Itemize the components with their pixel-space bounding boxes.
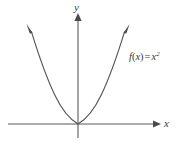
y-axis-arrowhead-icon (74, 13, 81, 21)
x-axis-label: x (164, 118, 169, 129)
graph-canvas (0, 0, 178, 144)
curve-right-arrowhead-icon (124, 24, 130, 34)
equation-equals-sign: = (144, 51, 152, 62)
curve-equation-label: f(x)=x2 (129, 52, 160, 63)
x-axis-arrowhead-icon (153, 120, 161, 127)
curve-left-arrowhead-icon (27, 24, 33, 34)
y-axis-label: y (74, 2, 79, 13)
parabola-figure: y x f(x)=x2 (0, 0, 178, 144)
equation-exponent: 2 (156, 50, 160, 58)
